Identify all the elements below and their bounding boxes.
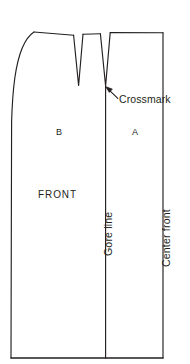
waistline-segment-b-left [34, 32, 74, 35]
side-seam-line [11, 32, 34, 358]
crossmark-label: Crossmark [119, 94, 171, 105]
panel-label-b: B [56, 128, 62, 137]
crossmark-leader-arrow [106, 87, 118, 99]
pattern-line-art [0, 0, 190, 364]
pattern-diagram: B A FRONT Crossmark Gore line Center fro… [0, 0, 190, 364]
waist-dart-two [100, 33, 110, 86]
gore-line-label: Gore line [103, 212, 114, 256]
panel-label-a: A [132, 128, 138, 137]
waist-dart-one [74, 34, 83, 85]
center-front-label: Center front [161, 209, 172, 267]
front-label: FRONT [38, 190, 77, 200]
